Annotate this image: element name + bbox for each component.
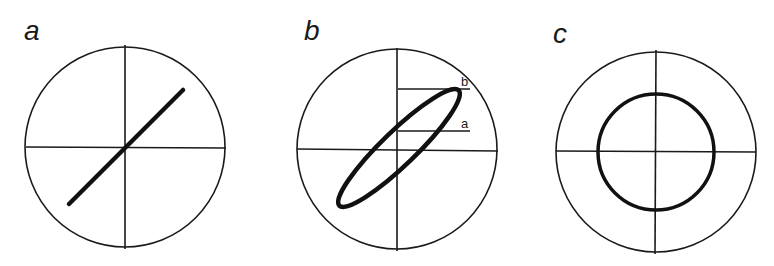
panel-a-label: a xyxy=(24,15,40,46)
panel-c-horizontal-axis xyxy=(556,151,756,152)
panel-c: c xyxy=(553,18,756,254)
panel-b-marker-b-label: b xyxy=(461,74,468,89)
lissajous-figure: a b b a c xyxy=(0,0,774,266)
panel-c-label: c xyxy=(553,18,567,49)
panel-b-ellipse xyxy=(327,78,470,218)
panel-a: a xyxy=(24,15,226,249)
panel-b-label: b xyxy=(304,15,320,46)
panel-b: b b a xyxy=(297,15,498,251)
panel-b-marker-a-label: a xyxy=(461,116,469,131)
panel-b-horizontal-axis xyxy=(297,149,498,151)
